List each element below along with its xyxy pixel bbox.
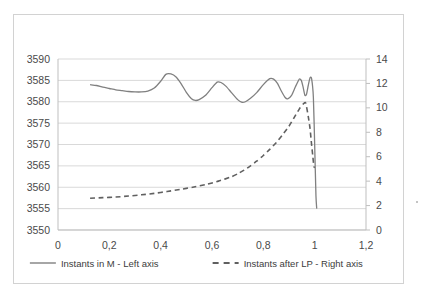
data-series-group <box>90 74 317 209</box>
series-line-left <box>90 74 317 209</box>
legend-label: Instants after LP - Right axis <box>244 258 363 269</box>
x-axis-tick-labels: 00,20,40,60,811,2 <box>55 239 373 251</box>
left-axis-tick-label: 3565 <box>27 159 51 171</box>
left-axis-tick-label: 3575 <box>27 117 51 129</box>
x-axis-tick-label: 0,4 <box>153 239 168 251</box>
right-axis-tick-label: 8 <box>376 126 382 138</box>
page-speck <box>416 201 418 203</box>
x-axis-tick-label: 1,2 <box>359 239 374 251</box>
plot-area: 355035553560356535703575358035853590 024… <box>14 15 405 285</box>
right-axis-tick-label: 10 <box>376 101 388 113</box>
chart-legend: Instants in M - Left axisInstants after … <box>30 258 363 269</box>
x-axis-tick-label: 0,6 <box>205 239 220 251</box>
x-axis-tick-label: 0 <box>55 239 61 251</box>
left-axis-tick-labels: 355035553560356535703575358035853590 <box>27 53 51 236</box>
legend-item: Instants in M - Left axis <box>30 258 159 269</box>
legend-item: Instants after LP - Right axis <box>213 258 363 269</box>
legend-label: Instants in M - Left axis <box>61 258 159 269</box>
right-axis-tick-label: 12 <box>376 77 388 89</box>
x-axis-tick-label: 0,8 <box>256 239 271 251</box>
right-axis-tick-labels: 02468101214 <box>366 53 388 236</box>
x-axis-tick-label: 0,2 <box>102 239 117 251</box>
left-axis-tick-label: 3580 <box>27 95 51 107</box>
left-axis-tick-label: 3585 <box>27 74 51 86</box>
left-axis-tick-label: 3570 <box>27 138 51 150</box>
series-line-right <box>90 103 315 199</box>
left-axis-tick-label: 3555 <box>27 202 51 214</box>
gridlines-group <box>58 59 366 230</box>
right-axis-tick-label: 6 <box>376 150 382 162</box>
x-axis-tick-label: 1 <box>312 239 318 251</box>
right-axis-tick-label: 0 <box>376 224 382 236</box>
left-axis-tick-label: 3550 <box>27 224 51 236</box>
right-axis-tick-label: 4 <box>376 175 382 187</box>
right-axis-tick-label: 14 <box>376 53 388 65</box>
right-axis-tick-label: 2 <box>376 199 382 211</box>
left-axis-tick-label: 3560 <box>27 181 51 193</box>
chart-container: 355035553560356535703575358035853590 024… <box>13 14 404 284</box>
chart-svg: 355035553560356535703575358035853590 024… <box>14 15 405 285</box>
left-axis-tick-label: 3590 <box>27 53 51 65</box>
